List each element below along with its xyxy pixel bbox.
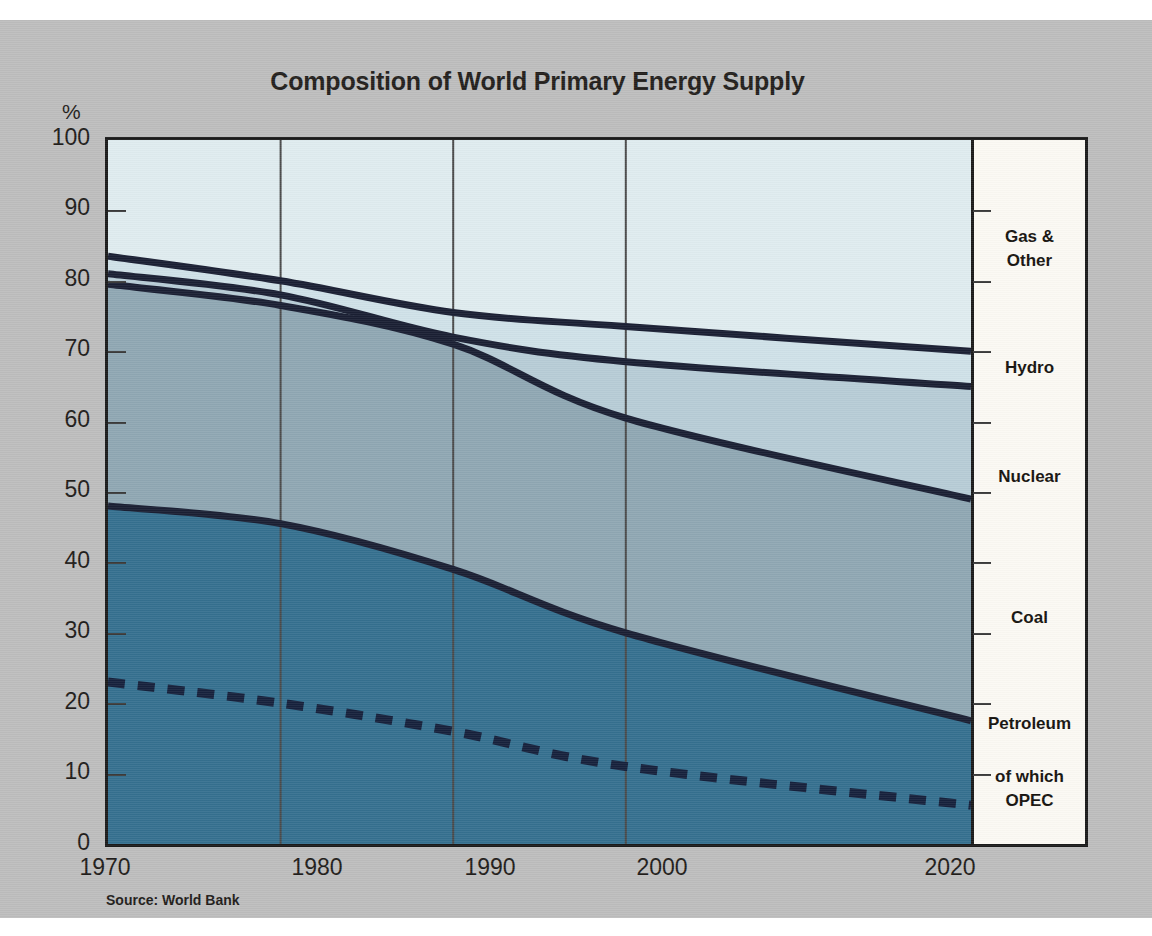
legend-label-hydro: Hydro — [974, 356, 1085, 380]
ytick-mark-40 — [108, 562, 126, 564]
legend-item-opec: of which OPEC — [974, 765, 1085, 813]
y-tick-40: 40 — [42, 547, 90, 574]
ytick-mark-right-60 — [973, 422, 991, 424]
y-tick-60: 60 — [42, 406, 90, 433]
y-tick-70: 70 — [42, 335, 90, 362]
legend-label-gas-other-line2: Other — [974, 249, 1085, 273]
legend-label-opec-line2: OPEC — [974, 789, 1085, 813]
legend-item-gas-other: Gas & Other — [974, 225, 1085, 273]
ytick-mark-right-90 — [973, 210, 991, 212]
y-tick-100: 100 — [42, 124, 90, 151]
ytick-mark-right-80 — [973, 281, 991, 283]
ytick-mark-20 — [108, 703, 126, 705]
y-tick-20: 20 — [42, 688, 90, 715]
x-tick-1970: 1970 — [45, 854, 165, 881]
legend-label-opec-line1: of which — [974, 765, 1085, 789]
legend-item-nuclear: Nuclear — [974, 465, 1085, 489]
poster-background: Composition of World Primary Energy Supp… — [0, 20, 1152, 918]
ytick-mark-right-30 — [973, 633, 991, 635]
area-bands — [108, 140, 971, 844]
ytick-mark-10 — [108, 774, 126, 776]
y-axis-unit-label: % — [62, 100, 81, 124]
plot-frame: Gas & Other Hydro Nuclear Coal Petroleum… — [105, 137, 1088, 847]
legend-label-petroleum: Petroleum — [974, 712, 1085, 736]
ytick-mark-right-20 — [973, 703, 991, 705]
ytick-mark-80 — [108, 281, 126, 283]
ytick-mark-30 — [108, 633, 126, 635]
legend-item-hydro: Hydro — [974, 356, 1085, 380]
page-title: Composition of World Primary Energy Supp… — [105, 67, 970, 96]
ytick-mark-right-50 — [973, 492, 991, 494]
y-tick-50: 50 — [42, 476, 90, 503]
ytick-mark-70 — [108, 351, 126, 353]
y-tick-90: 90 — [42, 194, 90, 221]
legend-label-coal: Coal — [974, 606, 1085, 630]
stacked-area-svg — [108, 140, 971, 844]
plot-area — [108, 140, 971, 844]
y-tick-30: 30 — [42, 617, 90, 644]
ytick-mark-right-40 — [973, 562, 991, 564]
x-tick-1980: 1980 — [257, 854, 377, 881]
ytick-mark-right-70 — [973, 351, 991, 353]
legend-item-petroleum: Petroleum — [974, 712, 1085, 736]
source-note: Source: World Bank — [106, 892, 240, 908]
ytick-mark-50 — [108, 492, 126, 494]
legend-label-nuclear: Nuclear — [974, 465, 1085, 489]
ytick-mark-90 — [108, 210, 126, 212]
x-tick-2020: 2020 — [890, 854, 1010, 881]
legend-item-coal: Coal — [974, 606, 1085, 630]
legend-panel: Gas & Other Hydro Nuclear Coal Petroleum… — [971, 140, 1085, 844]
x-tick-1990: 1990 — [430, 854, 550, 881]
legend-label-gas-other-line1: Gas & — [974, 225, 1085, 249]
y-tick-0: 0 — [42, 829, 90, 856]
y-tick-80: 80 — [42, 265, 90, 292]
chart-page: Composition of World Primary Energy Supp… — [0, 0, 1152, 936]
ytick-mark-60 — [108, 422, 126, 424]
y-tick-10: 10 — [42, 758, 90, 785]
x-tick-2000: 2000 — [602, 854, 722, 881]
